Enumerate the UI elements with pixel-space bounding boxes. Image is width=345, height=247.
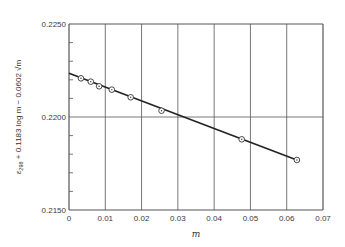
data-point (159, 108, 165, 114)
data-point (78, 76, 84, 82)
data-point-center (241, 139, 242, 140)
x-tick-label: 0.01 (97, 214, 113, 223)
x-tick-label: 0.07 (315, 214, 331, 223)
x-tick-label: 0.03 (170, 214, 186, 223)
data-point-center (161, 110, 162, 111)
y-tick-label: 0.2200 (42, 113, 67, 122)
tick-labels: 00.010.020.030.040.050.060.070.21500.220… (42, 20, 332, 223)
data-point-center (111, 89, 112, 90)
svg-text:ε298 + 0.1183 log m − 0.0602 √: ε298 + 0.1183 log m − 0.0602 √m (14, 59, 24, 174)
x-tick-label: 0.04 (206, 214, 222, 223)
data-point (294, 157, 300, 163)
data-point-center (98, 86, 99, 87)
data-point (109, 87, 115, 93)
y-tick-label: 0.2250 (42, 20, 67, 29)
data-point (88, 79, 94, 85)
x-tick-label: 0 (67, 214, 72, 223)
data-point-center (90, 81, 91, 82)
chart: 00.010.020.030.040.050.060.070.21500.220… (0, 0, 345, 247)
grid (69, 24, 323, 210)
y-axis-title: ε298 + 0.1183 log m − 0.0602 √m (14, 59, 24, 174)
x-tick-label: 0.05 (243, 214, 259, 223)
data-point-center (80, 78, 81, 79)
data-point-center (130, 97, 131, 98)
x-axis-title: m (192, 229, 201, 239)
x-tick-label: 0.02 (134, 214, 150, 223)
data-point (239, 137, 245, 143)
y-axis-title-sub: 298 (18, 161, 24, 170)
y-axis-title-rest: + 0.1183 log m − 0.0602 √m (14, 59, 23, 161)
data-point-center (296, 159, 297, 160)
x-tick-label: 0.06 (279, 214, 295, 223)
y-tick-label: 0.2150 (42, 206, 67, 215)
data-point (128, 94, 134, 100)
data-point (96, 84, 102, 90)
